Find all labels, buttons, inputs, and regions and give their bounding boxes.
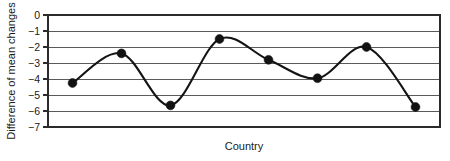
line-chart: 0 −1 −2 −3 −4 −5 −6 −7 Difference of mea… — [0, 0, 450, 161]
ytick-label-minus6: −6 — [28, 105, 40, 117]
ytick-label-minus3: −3 — [28, 57, 40, 69]
data-point — [411, 103, 420, 112]
y-axis-tick-labels: 0 −1 −2 −3 −4 −5 −6 −7 — [28, 9, 40, 133]
y-axis-title: Difference of mean changes — [5, 2, 17, 140]
data-point — [215, 35, 224, 44]
data-point — [313, 74, 322, 83]
data-point — [362, 43, 371, 52]
ytick-label-minus5: −5 — [28, 89, 40, 101]
ytick-label-0: 0 — [34, 9, 40, 21]
ytick-label-minus7: −7 — [28, 121, 40, 133]
data-point — [117, 49, 126, 58]
data-point — [68, 79, 77, 88]
data-point — [166, 101, 175, 110]
ytick-label-minus4: −4 — [28, 73, 40, 85]
x-axis-title: Country — [225, 140, 264, 152]
data-point — [264, 55, 273, 64]
ytick-label-minus1: −1 — [28, 25, 40, 37]
plot-background — [48, 15, 440, 127]
chart-figure: 0 −1 −2 −3 −4 −5 −6 −7 Difference of mea… — [0, 0, 450, 161]
ytick-label-minus2: −2 — [28, 41, 40, 53]
